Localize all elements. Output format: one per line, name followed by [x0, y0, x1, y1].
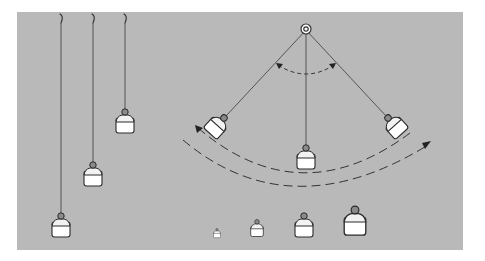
- pendulum-diagram: Pendulum illustration: effect of string …: [0, 0, 485, 261]
- diagram-canvas: Pendulum illustration: effect of string …: [0, 0, 485, 261]
- pivot-icon: [301, 24, 311, 34]
